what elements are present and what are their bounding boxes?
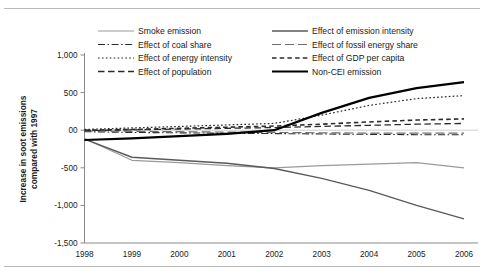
- figure-container: 1,00050000-500-1,000-1,50019981999200020…: [0, 0, 484, 274]
- legend-label: Non-CEI emission: [312, 67, 381, 77]
- line-chart: 1,00050000-500-1,000-1,50019981999200020…: [0, 0, 484, 274]
- x-tick-label: 2001: [218, 250, 237, 259]
- series-group: [85, 82, 465, 219]
- x-tick-label: 2004: [360, 250, 379, 259]
- y-axis-title-line1: Increase in soot emissions: [18, 95, 28, 202]
- y-axis-title-line2: compared with 1997: [29, 109, 39, 189]
- x-tick-label: 2003: [313, 250, 332, 259]
- series-line: [85, 139, 465, 219]
- legend-label: Effect of fossil energy share: [312, 40, 418, 50]
- y-tick-label: -1,000: [54, 201, 78, 210]
- y-tick-label: 500: [64, 89, 78, 98]
- axes-group: 1,00050000-500-1,000-1,50019981999200020…: [54, 51, 478, 259]
- legend: Smoke emissionEffect of emission intensi…: [98, 26, 418, 76]
- legend-label: Effect of emission intensity: [312, 26, 414, 36]
- x-tick-label: 1998: [75, 250, 94, 259]
- y-tick-label: -1,500: [54, 239, 78, 248]
- x-tick-label: 1999: [123, 250, 142, 259]
- legend-label: Effect of population: [138, 67, 212, 77]
- legend-label: Effect of coal share: [138, 40, 212, 50]
- legend-label: Smoke emission: [138, 26, 201, 36]
- legend-label: Effect of GDP per capita: [312, 53, 405, 63]
- x-tick-label: 2005: [407, 250, 426, 259]
- y-tick-label: -500: [61, 164, 78, 173]
- series-line: [85, 138, 465, 167]
- y-tick-label: 00: [68, 126, 78, 135]
- x-tick-label: 2000: [170, 250, 189, 259]
- legend-label: Effect of energy intensity: [138, 53, 233, 63]
- x-tick-label: 2006: [455, 250, 474, 259]
- y-tick-label: 1,000: [57, 51, 78, 60]
- x-tick-label: 2002: [265, 250, 284, 259]
